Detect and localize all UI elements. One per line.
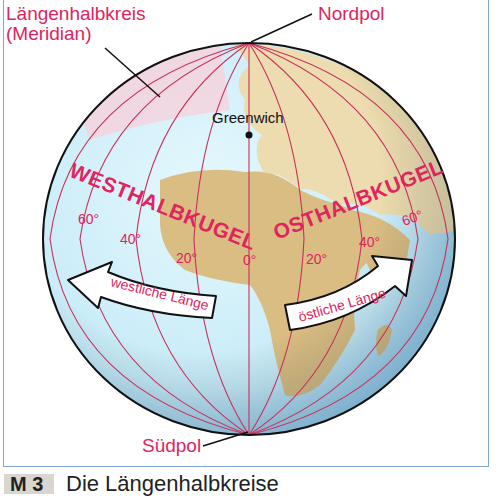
degree-w60: 60° (78, 211, 99, 227)
south-pole-label: Südpol (142, 435, 201, 456)
caption-text: Die Längenhalbkreise (66, 473, 279, 495)
caption-number: M 3 (10, 474, 43, 494)
north-pole-label: Nordpol (318, 3, 385, 24)
meridian-label-line2: (Meridian) (6, 23, 92, 44)
figure-caption: M 3 Die Längenhalbkreise (0, 470, 498, 491)
degree-w20: 20° (176, 250, 197, 266)
meridian-label-line1: Längenhalbkreis (6, 3, 145, 24)
greenwich-label: Greenwich (212, 109, 284, 126)
north-pole-leader-line (251, 14, 312, 42)
degree-e40: 40° (359, 234, 380, 250)
degree-zero: 0° (243, 252, 256, 268)
degree-w40: 40° (120, 231, 141, 247)
greenwich-marker (246, 132, 253, 139)
degree-e20: 20° (306, 251, 327, 267)
